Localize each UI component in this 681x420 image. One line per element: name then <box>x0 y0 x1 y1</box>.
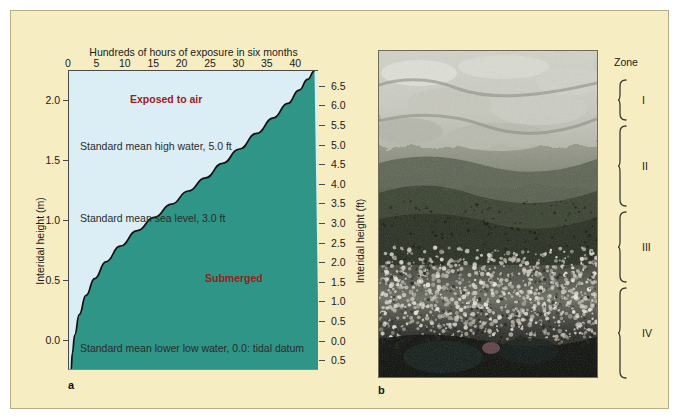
y-right-tick-label: 5.5 <box>331 119 346 131</box>
y-right-tick-label: 0.5 <box>331 315 346 327</box>
x-tick-label: 15 <box>147 57 159 69</box>
y-left-tick-label: 0.5 <box>45 274 60 286</box>
y-right-tick-label: 2.0 <box>331 256 346 268</box>
intertidal-photograph <box>378 50 598 378</box>
y-right-tick-mark <box>319 184 325 185</box>
y-right-tick-label: 1.0 <box>331 295 346 307</box>
y-right-tick-mark <box>319 86 325 87</box>
photograph-content <box>379 51 597 377</box>
annotation-mean-high-water: Standard mean high water, 5.0 ft <box>80 140 232 152</box>
x-tick-label: 20 <box>176 57 188 69</box>
y-right-tick-mark <box>319 360 325 361</box>
y-right-tick-mark <box>319 164 325 165</box>
y-right-tick-mark <box>319 321 325 322</box>
x-tick-label: 0 <box>65 57 71 69</box>
y-right-tick-mark <box>319 282 325 283</box>
y-right-tick-mark <box>319 243 325 244</box>
y-right-tick-mark <box>319 262 325 263</box>
x-tick-label: 5 <box>93 57 99 69</box>
x-tick-label: 25 <box>204 57 216 69</box>
zone-braces-svg <box>606 0 676 420</box>
zone-roman-label: IV <box>642 327 652 339</box>
y-right-tick-label: 2.5 <box>331 237 346 249</box>
y-left-tick-mark <box>63 340 68 341</box>
y-right-tick-label: 4.5 <box>331 158 346 170</box>
y-axis-left-title: Interidal height (m) <box>34 181 46 301</box>
panel-b-letter: b <box>378 384 385 396</box>
zone-roman-label: I <box>642 94 645 106</box>
zone-bracket-column: Zone IIIIIIIV <box>606 0 676 420</box>
y-left-tick-mark <box>63 160 68 161</box>
x-tick-label: 40 <box>289 57 301 69</box>
y-left-tick-label: 0.0 <box>45 334 60 346</box>
zone-brace <box>618 126 626 206</box>
x-tick-label: 10 <box>119 57 131 69</box>
y-right-tick-label: 0.5 <box>331 354 346 366</box>
zone-roman-label: II <box>642 160 648 172</box>
y-right-tick-mark <box>319 301 325 302</box>
y-right-tick-mark <box>319 105 325 106</box>
panel-a-chart: Hundreds of hours of exposure in six mon… <box>0 0 370 420</box>
y-right-tick-label: 1.5 <box>331 276 346 288</box>
y-axis-right-title: Interidal height (ft) <box>354 181 366 301</box>
x-tick-label: 30 <box>233 57 245 69</box>
region-label-submerged: Submerged <box>205 272 263 284</box>
y-right-tick-mark <box>319 341 325 342</box>
y-right-tick-label: 3.5 <box>331 197 346 209</box>
x-tick-label: 35 <box>261 57 273 69</box>
y-right-tick-mark <box>319 203 325 204</box>
y-right-tick-mark <box>319 223 325 224</box>
zone-brace <box>618 212 626 282</box>
zone-brace <box>618 80 626 120</box>
y-right-tick-label: 0.0 <box>331 335 346 347</box>
y-left-tick-label: 2.0 <box>45 94 60 106</box>
y-right-tick-label: 5.0 <box>331 139 346 151</box>
figure-root: Hundreds of hours of exposure in six mon… <box>0 0 681 420</box>
annotation-mean-sea-level: Standard mean sea level, 3.0 ft <box>80 212 225 224</box>
y-right-tick-label: 4.0 <box>331 178 346 190</box>
panel-a-letter: a <box>68 379 74 391</box>
y-left-tick-mark <box>63 280 68 281</box>
y-left-tick-mark <box>63 220 68 221</box>
zone-brace <box>618 288 626 378</box>
y-right-tick-label: 3.0 <box>331 217 346 229</box>
y-left-tick-label: 1.5 <box>45 154 60 166</box>
annotation-mean-lower-low-water: Standard mean lower low water, 0.0: tida… <box>80 342 304 354</box>
y-right-tick-mark <box>319 125 325 126</box>
zone-roman-label: III <box>642 241 651 253</box>
y-right-tick-label: 6.5 <box>331 80 346 92</box>
y-left-tick-mark <box>63 100 68 101</box>
y-right-tick-label: 6.0 <box>331 99 346 111</box>
y-left-tick-label: 1.0 <box>45 214 60 226</box>
y-right-tick-mark <box>319 145 325 146</box>
region-label-exposed: Exposed to air <box>130 93 202 105</box>
